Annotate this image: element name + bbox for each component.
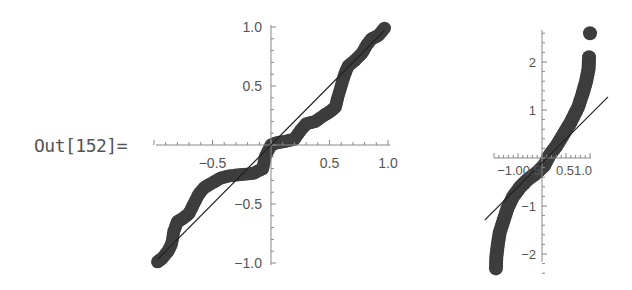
data-points — [489, 26, 597, 275]
x-tick-label: 1.0 — [378, 155, 398, 171]
data-point — [583, 26, 597, 40]
y-tick-label: 2 — [529, 55, 536, 70]
qq-plot-left: −0.50.51.01.00.5−0.5−1.0 — [151, 19, 398, 271]
y-tick-label: −1.0 — [234, 255, 262, 271]
qq-plots: −0.50.51.01.00.5−0.5−1.0 −1.00.50.51.021… — [0, 0, 632, 290]
y-tick-label: −2 — [521, 247, 536, 262]
x-tick-label: 0.5 — [320, 155, 340, 171]
data-point — [489, 261, 503, 275]
qq-plot-right: −1.00.50.51.021−1−2 — [485, 26, 608, 275]
data-point — [378, 22, 391, 35]
y-tick-label: 0.5 — [243, 78, 263, 94]
x-tick-label-right: 0.51.0 — [556, 163, 592, 178]
x-tick-label: −0.5 — [199, 155, 227, 171]
y-tick-label: 1 — [529, 103, 536, 118]
y-tick-label: −0.5 — [234, 196, 262, 212]
y-tick-label: −1 — [521, 199, 536, 214]
y-tick-label: 1.0 — [243, 19, 263, 35]
axes — [494, 30, 591, 273]
x-tick-label-left: −1.00.5 — [497, 163, 541, 178]
